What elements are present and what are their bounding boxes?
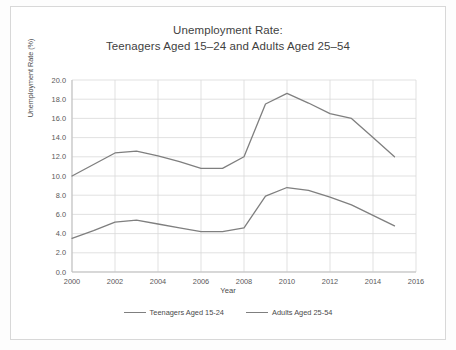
plot-svg: 0.02.04.06.08.010.012.014.016.018.020.0 … <box>0 0 456 350</box>
svg-text:2002: 2002 <box>107 277 123 286</box>
legend-item-teenagers: Teenagers Aged 15-24 <box>124 308 224 317</box>
series-line-0 <box>72 93 395 176</box>
grid-lines <box>72 80 416 272</box>
legend-label-teenagers: Teenagers Aged 15-24 <box>150 308 224 317</box>
y-tick-labels: 0.02.04.06.08.010.012.014.016.018.020.0 <box>52 76 66 277</box>
svg-text:18.0: 18.0 <box>52 95 66 104</box>
svg-text:2000: 2000 <box>64 277 80 286</box>
legend-line-icon-adults <box>246 312 268 313</box>
svg-text:4.0: 4.0 <box>56 229 66 238</box>
legend-label-adults: Adults Aged 25-54 <box>272 308 332 317</box>
svg-text:2012: 2012 <box>322 277 338 286</box>
svg-text:2008: 2008 <box>236 277 252 286</box>
svg-text:16.0: 16.0 <box>52 114 66 123</box>
svg-text:10.0: 10.0 <box>52 172 66 181</box>
svg-text:2.0: 2.0 <box>56 248 66 257</box>
plot-area: 0.02.04.06.08.010.012.014.016.018.020.0 … <box>0 0 456 350</box>
x-axis-label: Year <box>0 286 456 295</box>
svg-text:2004: 2004 <box>150 277 166 286</box>
svg-text:0.0: 0.0 <box>56 268 66 277</box>
data-series <box>72 93 395 238</box>
y-axis-label: Unemployment Rate (%) <box>26 18 35 138</box>
svg-text:8.0: 8.0 <box>56 191 66 200</box>
x-tick-labels: 200020022004200620082010201220142016 <box>64 277 424 286</box>
svg-text:6.0: 6.0 <box>56 210 66 219</box>
chart-figure: Unemployment Rate: Teenagers Aged 15–24 … <box>0 0 456 350</box>
svg-text:2016: 2016 <box>408 277 424 286</box>
chart-legend: Teenagers Aged 15-24 Adults Aged 25-54 <box>0 308 456 317</box>
legend-item-adults: Adults Aged 25-54 <box>246 308 332 317</box>
svg-text:14.0: 14.0 <box>52 133 66 142</box>
svg-text:12.0: 12.0 <box>52 152 66 161</box>
svg-text:20.0: 20.0 <box>52 76 66 85</box>
svg-text:2006: 2006 <box>193 277 209 286</box>
svg-text:2010: 2010 <box>279 277 295 286</box>
legend-line-icon-teenagers <box>124 312 146 313</box>
svg-text:2014: 2014 <box>365 277 381 286</box>
